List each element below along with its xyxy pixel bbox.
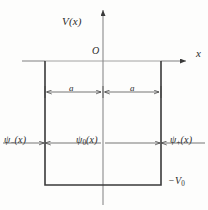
origin-label: O [92,46,99,56]
psi-argument-left: (x) [14,134,26,145]
psi-argument-middle: (x) [86,134,98,145]
potential-well-figure: V(x) x O a a ψ−(x) ψ0(x) ψ+(x) −V0 [0,0,208,210]
well-depth-label: −V0 [168,176,185,188]
vertical-axis-label: V(x) [62,16,82,27]
dimension-label-left-a: a [69,84,74,93]
psi-argument-right: (x) [180,134,192,145]
wavefunction-label-right: ψ+(x) [170,135,192,147]
dimension-label-right-a: a [130,84,135,93]
wavefunction-label-middle: ψ0(x) [76,135,98,147]
well-depth-subscript: 0 [181,180,185,188]
well-depth-minus-v: −V [168,175,181,186]
wavefunction-label-left: ψ−(x) [4,135,26,147]
horizontal-axis-label: x [196,48,201,59]
